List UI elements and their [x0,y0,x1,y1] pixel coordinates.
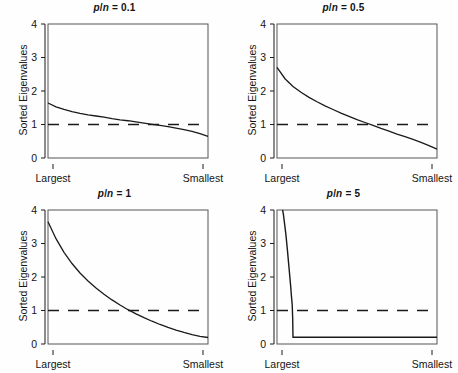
x-label-smallest: Smallest [412,172,452,184]
y-tick-1: 1 [260,118,266,130]
x-axis: Largest Smallest [264,350,452,370]
y-tick-0: 0 [31,338,37,350]
y-tick-0: 0 [260,152,266,164]
plot-box [48,24,208,158]
x-label-smallest: Smallest [183,358,223,370]
plot-area: 0 1 2 3 4 Largest Smallest [229,0,458,186]
panel-p-n-1: p/n = 1 Sorted Eigenvalues 0 1 2 3 4 [0,186,229,372]
y-axis: 0 1 2 3 4 [31,18,45,164]
y-axis: 0 1 2 3 4 [260,204,274,350]
eigenvalue-curve [277,186,437,337]
x-axis: Largest Smallest [35,164,223,184]
y-tick-3: 3 [260,237,266,249]
eigenvalue-curve [277,67,437,149]
y-tick-3: 3 [260,51,266,63]
y-tick-4: 4 [31,204,37,216]
figure-root: p/n = 0.1 Sorted Eigenvalues 0 1 2 3 4 [0,0,458,373]
x-axis: Largest Smallest [264,164,452,184]
x-axis: Largest Smallest [35,350,223,370]
x-label-largest: Largest [264,172,299,184]
y-tick-3: 3 [31,237,37,249]
y-tick-4: 4 [260,204,266,216]
y-tick-0: 0 [260,338,266,350]
eigenvalue-curve [48,222,208,338]
plot-box [277,210,437,344]
y-axis: 0 1 2 3 4 [260,18,274,164]
y-tick-2: 2 [260,271,266,283]
y-tick-1: 1 [260,304,266,316]
y-axis: 0 1 2 3 4 [31,204,45,350]
plot-area: 0 1 2 3 4 Largest Smallest [229,186,458,372]
x-label-smallest: Smallest [183,172,223,184]
x-label-smallest: Smallest [412,358,452,370]
x-label-largest: Largest [264,358,299,370]
eigenvalue-curve [48,103,208,136]
plot-area: 0 1 2 3 4 Largest Smallest [0,186,229,372]
panel-p-n-0-1: p/n = 0.1 Sorted Eigenvalues 0 1 2 3 4 [0,0,229,186]
y-tick-2: 2 [31,85,37,97]
y-tick-2: 2 [31,271,37,283]
panel-p-n-0-5: p/n = 0.5 Sorted Eigenvalues 0 1 2 3 4 [229,0,458,186]
x-label-largest: Largest [35,358,70,370]
y-tick-4: 4 [31,18,37,30]
y-tick-3: 3 [31,51,37,63]
plot-area: 0 1 2 3 4 Largest Smallest [0,0,229,186]
y-tick-2: 2 [260,85,266,97]
y-tick-4: 4 [260,18,266,30]
x-label-largest: Largest [35,172,70,184]
panel-p-n-5: p/n = 5 Sorted Eigenvalues 0 1 2 3 [229,186,458,372]
plot-box [48,210,208,344]
plot-box [277,24,437,158]
y-tick-0: 0 [31,152,37,164]
y-tick-1: 1 [31,304,37,316]
y-tick-1: 1 [31,118,37,130]
